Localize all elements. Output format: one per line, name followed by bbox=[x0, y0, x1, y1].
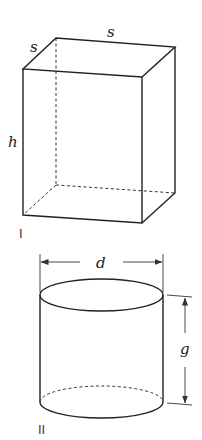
box-hidden-back-bottom-edge bbox=[56, 185, 175, 193]
cylinder-bottom-front-arc bbox=[40, 402, 163, 418]
label-s-depth: s bbox=[30, 38, 38, 56]
height-extension-bottom bbox=[167, 403, 192, 405]
label-h-height: h bbox=[8, 133, 18, 151]
label-s-width: s bbox=[107, 23, 115, 41]
figure-numeral-II: II bbox=[38, 422, 45, 437]
figure-numeral-I: I bbox=[19, 226, 23, 241]
cylinder-bottom-hidden-arc bbox=[40, 386, 163, 402]
box-hidden-left-bottom-edge bbox=[23, 185, 56, 215]
box-front-face bbox=[23, 69, 142, 223]
figure-cylinder: d g II bbox=[38, 254, 192, 437]
height-extension-top bbox=[167, 295, 192, 297]
box-top-face bbox=[23, 38, 175, 77]
label-d-diameter: d bbox=[96, 254, 106, 272]
figure-box: s s h I bbox=[8, 23, 175, 241]
cylinder-top-ellipse bbox=[40, 279, 163, 311]
label-g-height: g bbox=[180, 340, 190, 358]
geometry-diagram: s s h I d g II bbox=[0, 0, 202, 440]
